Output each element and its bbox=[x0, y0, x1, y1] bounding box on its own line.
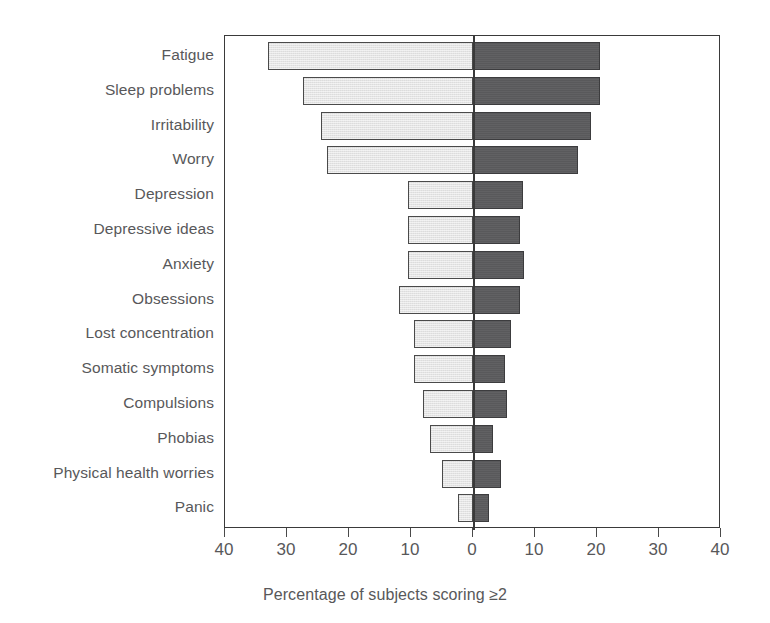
x-tick bbox=[224, 528, 225, 537]
diverging-bar-chart: FatigueSleep problemsIrritabilityWorryDe… bbox=[0, 0, 770, 623]
bar-left bbox=[303, 77, 474, 105]
category-label: Compulsions bbox=[0, 389, 214, 417]
bar-left bbox=[423, 390, 473, 418]
category-label: Obsessions bbox=[0, 285, 214, 313]
x-tick-label: 20 bbox=[318, 540, 378, 560]
x-tick bbox=[596, 528, 597, 537]
category-label: Somatic symptoms bbox=[0, 354, 214, 382]
x-tick bbox=[534, 528, 535, 537]
category-label: Depression bbox=[0, 180, 214, 208]
category-label: Lost concentration bbox=[0, 319, 214, 347]
bar-left bbox=[321, 112, 473, 140]
bar-right bbox=[473, 494, 489, 522]
x-axis-tick-labels: 40302010010203040 bbox=[0, 540, 770, 566]
category-label: Panic bbox=[0, 493, 214, 521]
bar-left bbox=[408, 216, 473, 244]
bar-left bbox=[458, 494, 474, 522]
bar-left bbox=[268, 42, 473, 70]
bar-right bbox=[473, 286, 520, 314]
bar-right bbox=[473, 181, 523, 209]
zero-axis-line bbox=[473, 35, 475, 530]
category-label: Worry bbox=[0, 145, 214, 173]
category-label: Sleep problems bbox=[0, 76, 214, 104]
x-axis-caption: Percentage of subjects scoring ≥2 bbox=[0, 586, 770, 604]
bar-right bbox=[473, 77, 600, 105]
x-tick-label: 10 bbox=[504, 540, 564, 560]
x-tick-label: 0 bbox=[442, 540, 502, 560]
x-tick-label: 40 bbox=[194, 540, 254, 560]
x-tick-label: 20 bbox=[566, 540, 626, 560]
category-label: Physical health worries bbox=[0, 459, 214, 487]
bar-right bbox=[473, 216, 520, 244]
bar-left bbox=[399, 286, 473, 314]
category-label: Phobias bbox=[0, 424, 214, 452]
bar-right bbox=[473, 425, 493, 453]
bar-left bbox=[414, 320, 473, 348]
bar-right bbox=[473, 390, 507, 418]
category-label: Irritability bbox=[0, 111, 214, 139]
category-label: Fatigue bbox=[0, 41, 214, 69]
category-axis: FatigueSleep problemsIrritabilityWorryDe… bbox=[0, 35, 214, 528]
bar-right bbox=[473, 146, 578, 174]
x-axis-ticks bbox=[224, 528, 720, 537]
bar-right bbox=[473, 251, 524, 279]
bar-left bbox=[408, 251, 473, 279]
x-tick bbox=[472, 528, 473, 537]
bar-right bbox=[473, 42, 600, 70]
x-tick-label: 30 bbox=[628, 540, 688, 560]
x-tick-label: 10 bbox=[380, 540, 440, 560]
bar-left bbox=[327, 146, 473, 174]
bar-right bbox=[473, 320, 511, 348]
plot-area bbox=[224, 35, 720, 528]
x-tick bbox=[286, 528, 287, 537]
bar-left bbox=[414, 355, 473, 383]
category-label: Depressive ideas bbox=[0, 215, 214, 243]
bar-right bbox=[473, 112, 591, 140]
x-tick bbox=[720, 528, 721, 537]
x-tick-label: 40 bbox=[690, 540, 750, 560]
bar-right bbox=[473, 355, 505, 383]
bar-left bbox=[430, 425, 473, 453]
x-tick bbox=[410, 528, 411, 537]
x-tick-label: 30 bbox=[256, 540, 316, 560]
bar-left bbox=[442, 460, 473, 488]
bar-right bbox=[473, 460, 501, 488]
category-label: Anxiety bbox=[0, 250, 214, 278]
x-tick bbox=[658, 528, 659, 537]
bar-left bbox=[408, 181, 473, 209]
x-tick bbox=[348, 528, 349, 537]
